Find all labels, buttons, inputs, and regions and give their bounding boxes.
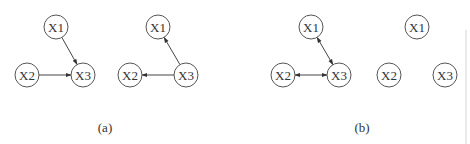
node-label: X1 [150, 20, 166, 35]
node-b1-x1: X1 [299, 15, 323, 39]
node-a2-x2: X2 [118, 63, 142, 87]
node-b2-x1: X1 [405, 15, 429, 39]
node-a1-x3: X3 [71, 63, 95, 87]
node-label: X2 [19, 68, 35, 83]
node-b2-x2: X2 [377, 63, 401, 87]
edge-b1-x1-x3 [317, 37, 333, 64]
node-label: X2 [381, 68, 397, 83]
node-label: X2 [122, 68, 138, 83]
panel-caption-b: (b) [354, 120, 369, 135]
node-label: X2 [275, 68, 291, 83]
figure-canvas: X1X2X3X1X2X3X1X2X3X1X2X3 (a) (b) [0, 0, 470, 144]
node-a1-x1: X1 [44, 15, 68, 39]
panel-caption-a: (a) [98, 120, 112, 135]
node-a2-x3: X3 [174, 63, 198, 87]
node-label: X3 [75, 68, 91, 83]
node-label: X3 [331, 68, 347, 83]
node-a2-x1: X1 [146, 15, 170, 39]
node-label: X3 [437, 68, 453, 83]
node-b1-x3: X3 [327, 63, 351, 87]
causal-graphs-figure: X1X2X3X1X2X3X1X2X3X1X2X3 (a) (b) [0, 0, 470, 144]
node-b2-x3: X3 [433, 63, 457, 87]
node-b1-x2: X2 [271, 63, 295, 87]
node-label: X1 [48, 20, 64, 35]
edge-a1-x1-x3 [62, 37, 77, 64]
node-label: X1 [303, 20, 319, 35]
node-a1-x2: X2 [15, 63, 39, 87]
edge-a2-x3-x1 [164, 37, 180, 64]
node-label: X3 [178, 68, 194, 83]
node-label: X1 [409, 20, 425, 35]
